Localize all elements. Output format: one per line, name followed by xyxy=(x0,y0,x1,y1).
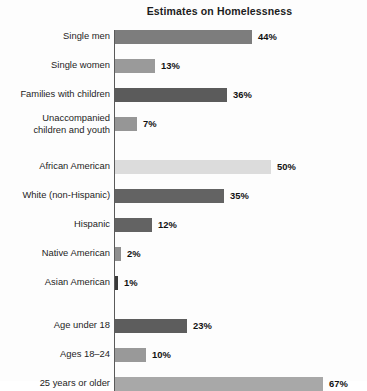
bar-row: Native American2% xyxy=(0,247,367,261)
bar-value-label: 12% xyxy=(158,219,177,230)
bar-value-label: 10% xyxy=(152,349,171,360)
bar-category-label: Ages 18–24 xyxy=(0,348,110,359)
bar-category-label: Single women xyxy=(0,59,110,70)
bar-category-label: Asian American xyxy=(0,276,110,287)
bar-row: Single women13% xyxy=(0,59,367,73)
bar-category-label: Hispanic xyxy=(0,218,110,229)
bar-value-label: 50% xyxy=(277,161,296,172)
bar-category-label: Age under 18 xyxy=(0,319,110,330)
bar-row: African American50% xyxy=(0,160,367,174)
bar-row: Age under 1823% xyxy=(0,319,367,333)
bar xyxy=(115,189,224,203)
bar-value-label: 35% xyxy=(230,190,249,201)
bar-value-label: 67% xyxy=(329,378,348,389)
bar-value-label: 13% xyxy=(161,60,180,71)
bar-category-label: Unaccompaniedchildren and youth xyxy=(0,112,110,135)
bar-value-label: 7% xyxy=(143,118,157,129)
bar-row: Families with children36% xyxy=(0,88,367,102)
bar-category-label: Native American xyxy=(0,247,110,258)
bar-row: Ages 18–2410% xyxy=(0,348,367,362)
bar-row: 25 years or older67% xyxy=(0,377,367,391)
chart-title: Estimates on Homelessness xyxy=(0,5,367,17)
bar xyxy=(115,319,187,333)
bar-value-label: 2% xyxy=(127,248,141,259)
bar-value-label: 1% xyxy=(124,277,138,288)
bar-category-label: Single men xyxy=(0,30,110,41)
bar-category-label: 25 years or older xyxy=(0,377,110,388)
bar xyxy=(115,276,118,290)
bar xyxy=(115,218,152,232)
bar-value-label: 44% xyxy=(258,31,277,42)
bar xyxy=(115,59,155,73)
bar xyxy=(115,117,137,131)
bar-value-label: 36% xyxy=(233,89,252,100)
bar-category-label: Families with children xyxy=(0,88,110,99)
chart-plot-area: Single men44%Single women13%Families wit… xyxy=(0,22,367,380)
bar-row: Asian American1% xyxy=(0,276,367,290)
bar-category-label: African American xyxy=(0,160,110,171)
category-axis-line xyxy=(114,30,115,391)
bar-row: White (non-Hispanic)35% xyxy=(0,189,367,203)
bar-row: Single men44% xyxy=(0,30,367,44)
bar-row: Hispanic12% xyxy=(0,218,367,232)
bar xyxy=(115,247,121,261)
bar xyxy=(115,30,252,44)
bar-value-label: 23% xyxy=(193,320,212,331)
bar xyxy=(115,377,323,391)
bar xyxy=(115,348,146,362)
bar-row: Unaccompaniedchildren and youth7% xyxy=(0,117,367,131)
bar xyxy=(115,88,227,102)
bar-category-label: White (non-Hispanic) xyxy=(0,189,110,200)
bar xyxy=(115,160,271,174)
